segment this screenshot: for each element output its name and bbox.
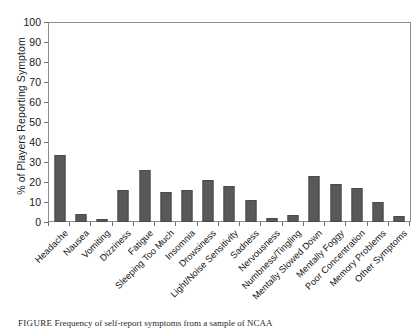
- y-tick-mark: [44, 202, 48, 203]
- y-tick-mark: [44, 182, 48, 183]
- bar: [54, 155, 65, 222]
- x-tick-mark: [303, 222, 304, 226]
- y-tick-mark: [44, 22, 48, 23]
- bar-slot: [113, 23, 134, 222]
- x-tick-mark: [388, 222, 389, 226]
- x-tick-mark: [133, 222, 134, 226]
- bar: [118, 190, 129, 222]
- bar: [203, 180, 214, 222]
- bar: [182, 190, 193, 222]
- y-tick-label: 30: [29, 156, 41, 168]
- y-tick-label: 40: [29, 136, 41, 148]
- x-tick-mark: [282, 222, 283, 226]
- bar: [75, 214, 86, 222]
- bar-slot: [346, 23, 367, 222]
- caption-text: Frequency of self-report symptoms from a…: [55, 318, 273, 328]
- bar-slot: [155, 23, 176, 222]
- y-tick-mark: [44, 62, 48, 63]
- bar-slot: [283, 23, 304, 222]
- y-tick-label: 50: [29, 116, 41, 128]
- x-tick-mark: [69, 222, 70, 226]
- bar-slot: [325, 23, 346, 222]
- x-tick-mark: [218, 222, 219, 226]
- y-axis-title: % of Players Reporting Symptom: [15, 11, 27, 221]
- y-tick-mark: [44, 42, 48, 43]
- y-tick-mark: [44, 162, 48, 163]
- y-tick-label: 10: [29, 196, 41, 208]
- bar: [309, 176, 320, 222]
- x-tick-mark: [48, 222, 49, 226]
- bar: [351, 188, 362, 222]
- bar-slot: [219, 23, 240, 222]
- bar: [160, 192, 171, 222]
- x-tick-mark: [260, 222, 261, 226]
- y-tick-mark: [44, 122, 48, 123]
- x-axis-ticks: [48, 222, 411, 227]
- x-tick-mark: [154, 222, 155, 226]
- x-tick-mark: [90, 222, 91, 226]
- bar-slot: [70, 23, 91, 222]
- x-axis-labels: HeadacheNauseaVomitingDizzinessFatigueSl…: [48, 228, 411, 324]
- bar-slot: [389, 23, 410, 222]
- bar-slot: [49, 23, 70, 222]
- bar: [245, 200, 256, 222]
- y-tick-label: 0: [35, 216, 41, 228]
- x-tick-mark: [345, 222, 346, 226]
- x-tick-mark: [367, 222, 368, 226]
- bar-slot: [176, 23, 197, 222]
- bar: [330, 184, 341, 222]
- y-tick-label: 70: [29, 76, 41, 88]
- y-tick-mark: [44, 102, 48, 103]
- bar-chart-figure: % of Players Reporting Symptom 010203040…: [0, 0, 420, 328]
- x-tick-mark: [324, 222, 325, 226]
- x-tick-mark: [175, 222, 176, 226]
- bar: [288, 215, 299, 222]
- y-tick-label: 20: [29, 176, 41, 188]
- bar-slot: [134, 23, 155, 222]
- x-tick-mark: [239, 222, 240, 226]
- figure-caption: FIGURE Frequency of self-report symptoms…: [18, 318, 414, 328]
- bar-slot: [240, 23, 261, 222]
- y-tick-label: 60: [29, 96, 41, 108]
- bar-slot: [368, 23, 389, 222]
- bar-slot: [198, 23, 219, 222]
- bar-series: [49, 23, 410, 222]
- bar-slot: [91, 23, 112, 222]
- bar: [373, 202, 384, 222]
- x-tick-mark: [112, 222, 113, 226]
- x-tick-mark: [409, 222, 410, 226]
- bar-slot: [304, 23, 325, 222]
- y-tick-mark: [44, 82, 48, 83]
- y-tick-mark: [44, 142, 48, 143]
- bar: [224, 186, 235, 222]
- bar: [139, 170, 150, 222]
- y-tick-label: 100: [23, 16, 41, 28]
- x-tick-mark: [197, 222, 198, 226]
- caption-label: FIGURE: [18, 318, 52, 328]
- y-tick-label: 90: [29, 36, 41, 48]
- bar-slot: [261, 23, 282, 222]
- y-tick-label: 80: [29, 56, 41, 68]
